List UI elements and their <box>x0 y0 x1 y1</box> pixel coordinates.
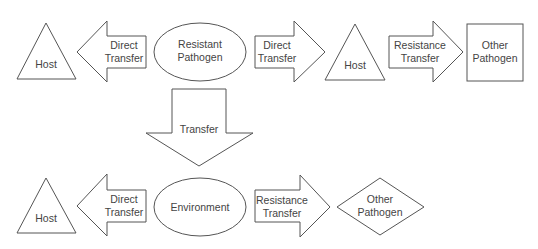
resistant-pathogen-label-line2: Pathogen <box>178 51 223 63</box>
direct-transfer-arrow-left-top: Direct Transfer <box>77 21 146 82</box>
host-triangle-top-mid: Host <box>325 24 385 80</box>
host-triangle-bottom-left: Host <box>17 178 76 233</box>
arrow-label-line1: Resistance <box>394 39 446 51</box>
host-label: Host <box>35 212 57 224</box>
environment-label: Environment <box>171 201 230 213</box>
other-pathogen-label-line1: Other <box>367 193 394 205</box>
environment-ellipse: Environment <box>154 178 246 236</box>
direct-transfer-arrow-right-top: Direct Transfer <box>255 21 325 82</box>
arrow-label-line2: Transfer <box>105 52 144 64</box>
transfer-label: Transfer <box>180 123 219 135</box>
arrow-label-line2: Transfer <box>263 207 302 219</box>
direct-transfer-arrow-left-bottom: Direct Transfer <box>77 174 146 236</box>
resistant-pathogen-ellipse: Resistant Pathogen <box>154 23 246 81</box>
resistance-transfer-arrow-top: Resistance Transfer <box>389 21 463 82</box>
resistance-transfer-arrow-bottom: Resistance Transfer <box>255 175 330 237</box>
other-pathogen-label-line1: Other <box>482 39 509 51</box>
arrow-label-line1: Direct <box>110 39 138 51</box>
host-label: Host <box>35 58 57 70</box>
arrow-label-line1: Direct <box>110 193 138 205</box>
arrow-label-line1: Direct <box>263 39 291 51</box>
arrow-label-line2: Transfer <box>258 52 297 64</box>
host-label: Host <box>344 59 366 71</box>
transfer-arrow-down: Transfer <box>146 89 253 166</box>
other-pathogen-square: Other Pathogen <box>467 24 523 81</box>
arrow-label-line1: Resistance <box>256 194 308 206</box>
arrow-label-line2: Transfer <box>401 52 440 64</box>
host-triangle-top-left: Host <box>17 23 76 79</box>
resistant-pathogen-label-line1: Resistant <box>178 38 222 50</box>
other-pathogen-label-line2: Pathogen <box>473 52 518 64</box>
other-pathogen-diamond: Other Pathogen <box>337 178 424 235</box>
arrow-label-line2: Transfer <box>105 206 144 218</box>
other-pathogen-label-line2: Pathogen <box>358 206 403 218</box>
